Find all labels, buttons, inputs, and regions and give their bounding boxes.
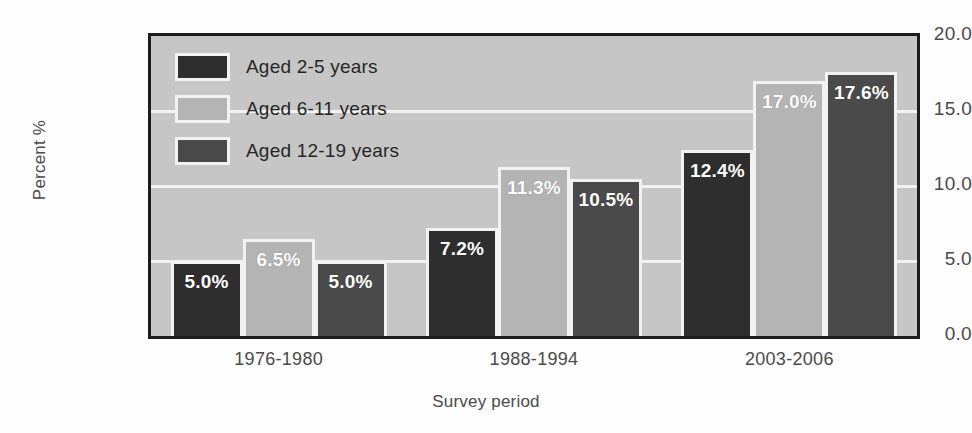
bar: 7.2%	[426, 228, 498, 336]
bar: 11.3%	[498, 167, 570, 337]
bar-value-label: 12.4%	[684, 160, 750, 182]
legend-label-aged-12-19: Aged 12-19 years	[246, 140, 399, 162]
bar-chart: Percent % 0.05.010.015.020.0 5.0%6.5%5.0…	[0, 0, 972, 433]
bar-value-label: 17.6%	[828, 82, 894, 104]
bar-value-label: 5.0%	[318, 271, 384, 293]
y-axis-title: Percent %	[30, 80, 50, 240]
x-axis-tick-label: 1976-1980	[151, 349, 406, 370]
legend: Aged 2-5 years Aged 6-11 years Aged 12-1…	[175, 46, 475, 172]
bar: 5.0%	[315, 261, 387, 336]
legend-label-aged-6-11: Aged 6-11 years	[246, 98, 387, 120]
legend-label-aged-2-5: Aged 2-5 years	[246, 56, 378, 78]
legend-item-aged-12-19: Aged 12-19 years	[175, 130, 475, 172]
legend-item-aged-6-11: Aged 6-11 years	[175, 88, 475, 130]
plot-area: 5.0%6.5%5.0%7.2%11.3%10.5%12.4%17.0%17.6…	[148, 33, 920, 339]
bar-value-label: 7.2%	[429, 238, 495, 260]
bar-value-label: 17.0%	[756, 91, 822, 113]
legend-swatch-icon-aged-2-5	[175, 53, 230, 81]
bar: 17.0%	[753, 81, 825, 336]
bar-value-label: 11.3%	[501, 177, 567, 199]
bar: 17.6%	[825, 72, 897, 336]
legend-item-aged-2-5: Aged 2-5 years	[175, 46, 475, 88]
bar-value-label: 5.0%	[174, 271, 240, 293]
legend-swatch-icon-aged-6-11	[175, 95, 230, 123]
legend-swatch-icon-aged-12-19	[175, 137, 230, 165]
x-axis-title: Survey period	[0, 392, 972, 412]
bar: 6.5%	[243, 239, 315, 337]
bar: 12.4%	[681, 150, 753, 336]
bar-value-label: 10.5%	[573, 189, 639, 211]
x-axis-tick-label: 2003-2006	[662, 349, 917, 370]
bar: 10.5%	[570, 179, 642, 337]
bar-value-label: 6.5%	[246, 249, 312, 271]
bar: 5.0%	[171, 261, 243, 336]
x-axis-tick-label: 1988-1994	[406, 349, 661, 370]
